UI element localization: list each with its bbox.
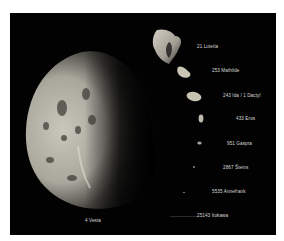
- label-ida-dactyl: 243 Ida / 1 Dactyl: [223, 94, 261, 99]
- label-itokawa: 25143 Itokawa: [197, 214, 228, 219]
- label-mathilde: 253 Mathilde: [212, 69, 240, 74]
- vesta-asteroid: [20, 50, 157, 210]
- label-lutetia: 21 Lutetia: [197, 45, 218, 50]
- gaspra-asteroid: [197, 141, 202, 145]
- itokawa-marker-line: [170, 216, 198, 217]
- mathilde-asteroid: [176, 65, 192, 79]
- label-eros: 433 Eros: [236, 117, 255, 122]
- label-vesta: 4 Vesta: [85, 219, 101, 224]
- label-annefrank: 5535 Annefrank: [212, 190, 246, 195]
- label-gaspra: 951 Gaspra: [227, 142, 252, 147]
- ida-asteroid: [186, 91, 202, 102]
- steins-asteroid: [193, 166, 195, 168]
- label-steins: 2867 Šteins: [223, 166, 248, 171]
- annefrank-asteroid: [183, 192, 185, 193]
- lutetia-asteroid: [151, 28, 183, 66]
- image-frame: 21 Lutetia 253 Mathilde 243 Ida / 1 Dact…: [10, 13, 276, 235]
- eros-asteroid: [198, 114, 204, 123]
